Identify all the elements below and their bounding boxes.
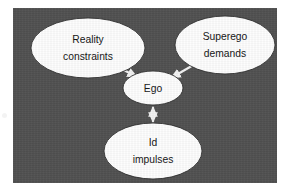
node-label-line1: Superego (203, 31, 248, 42)
node-reality-constraints[interactable]: Reality constraints (31, 18, 145, 78)
node-label-line1: Reality (72, 34, 104, 45)
node-shape-ellipse (104, 123, 202, 179)
diagram-panel: Reality constraints Superego demands Ego… (13, 8, 277, 183)
node-shape-ellipse (175, 16, 275, 74)
figure-root: Reality constraints Superego demands Ego… (0, 0, 289, 196)
node-label-line1: Ego (144, 83, 163, 94)
node-label-line2: demands (204, 48, 246, 59)
diagram-canvas: Reality constraints Superego demands Ego… (13, 8, 277, 183)
node-superego-demands[interactable]: Superego demands (175, 16, 275, 74)
node-label-line2: impulses (133, 154, 174, 165)
node-label-line1: Id (149, 137, 158, 148)
node-label-line2: constraints (63, 51, 113, 62)
node-shape-ellipse (31, 18, 145, 78)
node-id-impulses[interactable]: Id impulses (104, 123, 202, 179)
scan-artifact-speck (2, 113, 7, 118)
node-ego[interactable]: Ego (123, 71, 183, 105)
